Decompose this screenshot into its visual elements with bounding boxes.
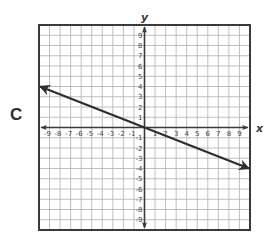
y-tick-label: 9 — [138, 32, 142, 40]
x-axis-label: x — [255, 122, 264, 135]
y-axis-label: y — [141, 11, 149, 24]
y-tick-label: 4 — [138, 83, 143, 91]
x-tick-label: 4 — [184, 130, 189, 138]
y-tick-label: -4 — [136, 165, 144, 173]
answer-choice-label: C — [10, 105, 22, 125]
y-tick-label: -9 — [136, 216, 143, 224]
y-tick-label: -8 — [136, 206, 143, 214]
x-tick-label: -6 — [76, 130, 84, 138]
x-tick-label: 7 — [216, 130, 220, 138]
y-tick-label: -3 — [136, 155, 143, 163]
x-tick-label: 3 — [174, 130, 178, 138]
x-tick-label: -8 — [55, 130, 62, 138]
y-tick-label: -6 — [136, 186, 144, 194]
y-tick-label: 5 — [138, 73, 142, 81]
x-tick-label: -1 — [128, 130, 135, 138]
y-tick-label: 8 — [138, 42, 142, 50]
y-tick-label: -2 — [136, 145, 143, 153]
x-tick-label: -5 — [86, 130, 93, 138]
x-tick-label: -3 — [107, 130, 114, 138]
graph-figure: C -9-8-7-6-5-4-3-2-1123456789-9-8-7-6-5-… — [0, 0, 276, 247]
y-tick-label: -5 — [136, 175, 143, 183]
x-tick-label: 5 — [195, 130, 199, 138]
coordinate-plane: -9-8-7-6-5-4-3-2-1123456789-9-8-7-6-5-4-… — [0, 0, 276, 247]
y-tick-label: 1 — [138, 114, 142, 122]
y-tick-label: 2 — [138, 104, 142, 112]
x-tick-label: 6 — [206, 130, 211, 138]
y-tick-label: 6 — [138, 63, 143, 71]
x-tick-label: 9 — [237, 130, 241, 138]
x-tick-label: -7 — [65, 130, 72, 138]
y-tick-label: 7 — [138, 52, 142, 60]
x-tick-label: -4 — [97, 130, 105, 138]
x-tick-label: 8 — [227, 130, 231, 138]
x-tick-label: -9 — [44, 130, 51, 138]
x-tick-label: -2 — [118, 130, 125, 138]
y-tick-label: 3 — [138, 93, 142, 101]
y-tick-label: -1 — [136, 134, 143, 142]
y-tick-label: -7 — [136, 196, 143, 204]
